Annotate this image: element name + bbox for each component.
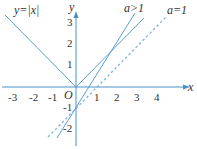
y-tick: 3	[67, 16, 73, 28]
abs-x-curve	[5, 15, 144, 87]
abs-x-label: y=|x|	[13, 3, 39, 17]
y-tick: 2	[67, 37, 73, 49]
y-tick: -2	[63, 122, 72, 134]
a-eq-1-label: a=1	[167, 3, 187, 17]
x-tick: 3	[134, 91, 140, 103]
origin-label: O	[64, 88, 73, 102]
x-tick: -1	[48, 91, 57, 103]
y-tick: -1	[63, 101, 72, 113]
x-tick: -3	[8, 91, 18, 103]
x-axis-label: x	[187, 80, 194, 94]
y-axis-label: y	[68, 0, 75, 14]
x-tick: 1	[94, 91, 100, 103]
y-tick: 1	[67, 58, 73, 70]
line-a-gt-1	[57, 13, 135, 138]
function-graph: y=|x| a>1 a=1 y x O -3 -2 -1 1 2 3 4 3 2…	[0, 0, 197, 149]
x-tick: 4	[154, 91, 160, 103]
x-tick: -2	[29, 91, 38, 103]
a-gt-1-label: a>1	[124, 1, 144, 15]
x-tick: 2	[114, 91, 120, 103]
